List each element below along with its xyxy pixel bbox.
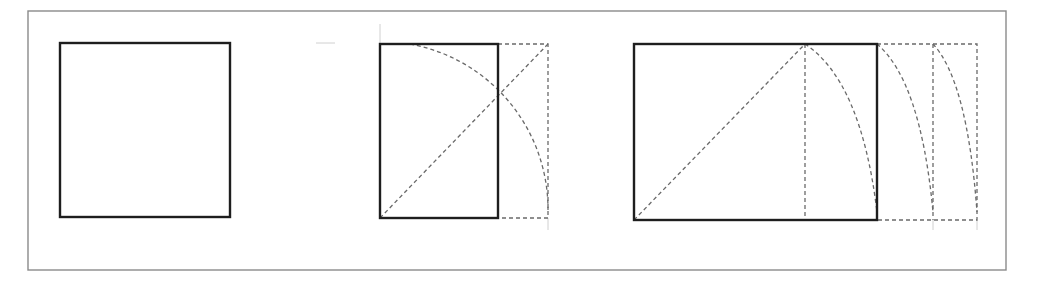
- dashed-arc: [805, 44, 877, 212]
- dashed-diagonal: [380, 44, 548, 218]
- dashed-arc: [877, 44, 933, 212]
- construction-diagram: [0, 0, 1038, 288]
- square-outline: [60, 43, 230, 217]
- dashed-arc: [933, 44, 977, 212]
- dashed-extension: [877, 44, 977, 220]
- outer-frame: [28, 11, 1006, 270]
- figure-extended-rectangle: [634, 44, 977, 220]
- rectangle-outline: [380, 44, 498, 218]
- dashed-diagonal: [634, 44, 805, 220]
- diagram-canvas: [0, 0, 1038, 288]
- figure-square: [60, 43, 230, 217]
- figure-root-rectangle: [380, 44, 548, 218]
- dashed-arc: [410, 44, 548, 210]
- rectangle-outline: [634, 44, 877, 220]
